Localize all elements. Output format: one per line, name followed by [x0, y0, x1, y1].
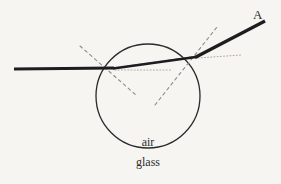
guide-dotted-exit — [198, 55, 241, 58]
normal-line-entry — [80, 46, 136, 95]
medium-label-air: air — [142, 136, 155, 148]
medium-label-glass: glass — [136, 156, 160, 168]
normal-line-exit — [155, 27, 217, 105]
ray-label-a: A — [253, 8, 262, 21]
exit-ray — [195, 21, 265, 58]
refraction-diagram: A air glass — [0, 0, 281, 184]
incident-ray — [14, 68, 114, 69]
internal-ray — [113, 57, 196, 69]
